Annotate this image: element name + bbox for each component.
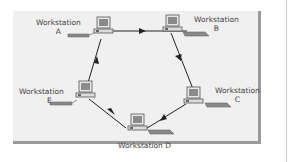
workstation-b-letter: B [194, 24, 239, 33]
edge-b-c [171, 33, 193, 89]
workstation-e-label: Workstation E [19, 87, 64, 105]
workstation-d-icon [128, 114, 174, 134]
workstation-e-title: Workstation [19, 87, 64, 96]
workstation-d-label: Workstation D [118, 141, 171, 150]
workstation-b-label: Workstation B [194, 15, 239, 33]
edge-d-e [89, 99, 126, 128]
workstation-d-title: Workstation D [118, 141, 171, 150]
edge-e-a [87, 39, 101, 86]
workstation-a-label: Workstation A [36, 18, 81, 36]
workstation-c-label: Workstation C [215, 86, 260, 104]
workstation-c-title: Workstation [215, 86, 260, 95]
workstation-e-letter: E [19, 96, 52, 105]
workstation-b-title: Workstation [194, 15, 239, 24]
workstation-a-title: Workstation [36, 18, 81, 27]
workstation-c-letter: C [215, 95, 260, 104]
edge-c-d [144, 104, 186, 130]
workstation-a-letter: A [36, 27, 61, 36]
